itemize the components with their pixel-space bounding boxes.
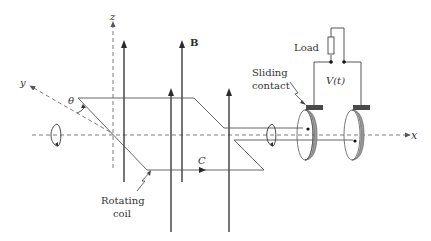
y-axis — [32, 87, 110, 132]
z-axis-label: z — [109, 11, 116, 22]
load-resistor — [328, 37, 334, 54]
contour-arrow-icon — [199, 167, 206, 173]
voltage-label: V(t) — [326, 75, 345, 86]
rotating-coil-label-2: coil — [113, 208, 131, 219]
rotating-coil-pointer-icon — [137, 172, 150, 191]
terminal-2 — [342, 60, 346, 64]
load-label: Load — [294, 42, 320, 53]
rotation-arrow-right-icon — [267, 124, 276, 147]
brush-2 — [353, 105, 370, 110]
terminal-1 — [329, 60, 333, 64]
brush-1 — [306, 105, 323, 110]
field-label: B — [190, 37, 198, 48]
rotation-arrow-left-icon — [51, 124, 61, 147]
angle-label: θ — [68, 95, 74, 106]
sliding-contact-pointer-icon — [290, 82, 305, 104]
sliding-contact-label-1: Sliding — [252, 67, 288, 78]
contour-label: C — [198, 155, 206, 166]
rotating-coil-label-1: Rotating — [101, 195, 145, 206]
generator-diagram: x z y B — [0, 0, 431, 241]
x-axis-label: x — [411, 129, 418, 142]
sliding-contact-label-2: contact — [252, 80, 290, 91]
y-axis-label: y — [19, 77, 26, 88]
external-circuit — [314, 28, 361, 105]
